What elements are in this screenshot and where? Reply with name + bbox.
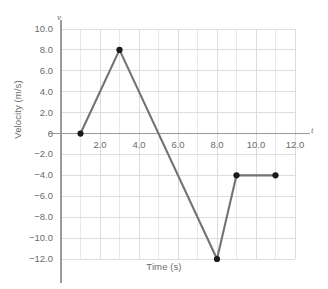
x-axis-title: Time (s) [0,261,328,272]
x-tick-label: 10.0 [236,140,276,150]
velocity-time-chart: 10.08.06.04.02.00−2.0−4.0−6.0−8.0−10.0−1… [0,0,328,289]
y-tick-label: −10.0 [9,233,53,243]
x-tick-label: 2.0 [80,140,120,150]
x-axis-symbol: t [311,125,314,135]
y-axis-title: Velocity (m/s) [12,55,23,165]
x-tick-label: 8.0 [197,140,237,150]
y-axis-symbol: v [57,12,61,22]
y-tick-label: 8.0 [9,45,53,55]
y-tick-label: −8.0 [9,212,53,222]
axis-layer [48,20,310,283]
y-tick-label: −6.0 [9,191,53,201]
x-tick-label: 6.0 [158,140,198,150]
x-tick-label: 12.0 [275,140,315,150]
y-tick-label: −4.0 [9,170,53,180]
x-tick-label: 4.0 [119,140,159,150]
y-tick-label: 10.0 [9,24,53,34]
